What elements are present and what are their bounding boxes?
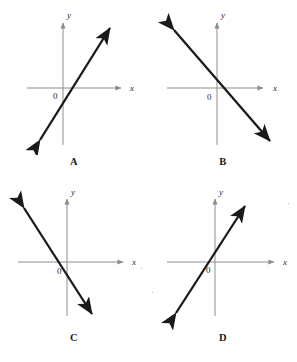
panel-caption-b: B	[149, 156, 297, 167]
x-axis-label-c: x	[131, 257, 136, 267]
scan-speck	[141, 268, 142, 269]
x-axis-label-d: x	[282, 257, 287, 267]
graph-panel-b: y x 0 B	[149, 0, 297, 181]
panel-caption-a: A	[0, 156, 148, 167]
origin-label-a: 0	[53, 91, 58, 101]
y-axis-label-a: y	[66, 10, 71, 20]
x-axis-label-b: x	[272, 83, 277, 93]
origin-label-b: 0	[207, 92, 212, 102]
graph-panel-d: y x 0 D	[149, 181, 297, 362]
graph-a-svg: y x 0	[0, 0, 148, 155]
panel-caption-d: D	[149, 332, 297, 343]
graph-b-svg: y x 0	[149, 0, 297, 155]
scan-speck	[152, 292, 153, 293]
origin-label-d: 0	[206, 265, 211, 275]
plotted-line-b	[174, 30, 270, 141]
graph-d-svg: y x 0	[149, 181, 297, 356]
origin-label-c: 0	[57, 266, 62, 276]
plotted-line-d	[176, 206, 245, 313]
scan-speck	[288, 203, 289, 204]
graph-c-svg: y x 0	[0, 181, 148, 356]
four-graph-figure: y x 0 A y x 0 B	[0, 0, 297, 362]
graph-panel-a: y x 0 A	[0, 0, 148, 181]
y-axis-label-b: y	[220, 10, 225, 20]
y-axis-label-d: y	[218, 187, 223, 197]
graph-panel-c: y x 0 C	[0, 181, 148, 362]
y-axis-label-c: y	[70, 187, 75, 197]
plotted-line-c	[24, 208, 92, 314]
panel-caption-c: C	[0, 332, 148, 343]
plotted-line-a	[40, 28, 110, 140]
x-axis-label-a: x	[129, 83, 134, 93]
